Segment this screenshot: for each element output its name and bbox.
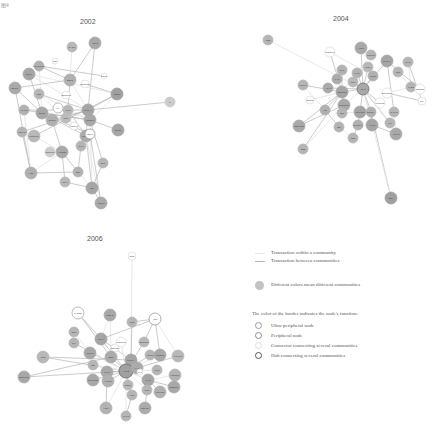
network-node: Infineon xyxy=(298,80,308,90)
node-label: HIE xyxy=(323,109,327,111)
node-label: EPSON xyxy=(416,88,424,90)
ultra-peripheral-node-icon xyxy=(255,322,262,329)
network-node: BASC xyxy=(67,42,77,52)
network-node: Nanya2 xyxy=(139,402,151,414)
network-node: SST xyxy=(337,108,347,118)
node-label: TOSHIBA xyxy=(110,347,120,349)
node-label: PSC xyxy=(396,71,401,73)
node-label: ELPIDA xyxy=(367,111,375,113)
network-node: Renesas xyxy=(154,386,166,398)
legend-label: Peripheral node xyxy=(271,333,303,338)
node-label: BSNC xyxy=(67,79,73,81)
network-node: TRIZ xyxy=(127,317,137,327)
node-label: SNP xyxy=(389,197,394,199)
node-label: SANYO xyxy=(390,111,398,113)
node-label: SSE xyxy=(301,148,306,150)
network-node: NANYA xyxy=(381,55,393,67)
node-label: ASAH xyxy=(325,87,331,89)
node-label: ALPHA xyxy=(61,181,69,183)
network-node: Lincoln xyxy=(70,122,78,130)
network-node: Amkor xyxy=(355,42,367,54)
node-label: EBSI xyxy=(109,356,114,358)
network-node: ELPIDA xyxy=(366,107,376,117)
network-node: Kingston xyxy=(154,349,166,361)
node-label: ASIC xyxy=(129,394,135,396)
network-graph: ONCCANONELEADASMTRIZUNITALPHAChipbondSam… xyxy=(0,215,240,430)
connector-node-icon xyxy=(255,342,262,349)
network-node: UNIT xyxy=(348,133,358,143)
node-label: SDRUGE xyxy=(294,125,304,127)
network-node: PSC xyxy=(393,67,403,77)
network-node: SANYO xyxy=(389,107,399,117)
network-node: ONC xyxy=(128,252,136,260)
node-label: TSMC xyxy=(147,354,154,356)
node-label: UMC xyxy=(155,369,160,371)
node-label: Mosel xyxy=(365,66,371,68)
network-node: Elpida xyxy=(123,380,133,390)
network-node: TX xyxy=(53,103,63,113)
node-label: Kingston xyxy=(86,119,95,121)
legend-label: Transaction within a community xyxy=(271,250,336,255)
node-label: PSC xyxy=(145,389,150,391)
network-node: Kingston xyxy=(84,114,96,126)
network-node: TTI xyxy=(385,118,395,128)
node-label: Winbond xyxy=(171,374,180,376)
node-label: ASCLIP xyxy=(97,202,105,204)
node-label: OKI xyxy=(420,100,424,102)
network-node: EEI xyxy=(73,167,83,177)
network-node: Elpida xyxy=(101,73,108,79)
node-label: Renesas xyxy=(356,111,366,113)
node-label: Powerchip xyxy=(88,379,99,381)
network-node: ATAS xyxy=(142,374,154,386)
community-color-icon xyxy=(255,281,264,290)
network-node: PSC xyxy=(61,113,71,123)
network-node: CAP xyxy=(137,369,143,375)
network-node: SSE xyxy=(298,144,308,154)
node-label: TRIZ xyxy=(130,321,136,323)
node-label: ALPAD xyxy=(392,133,399,135)
node-label: Formosa xyxy=(376,102,385,104)
node-label: CANON xyxy=(74,312,82,314)
node-label: Lincoln xyxy=(71,125,79,127)
network-node: EPSON xyxy=(415,84,425,94)
network-node: ELITE xyxy=(112,124,124,136)
edge xyxy=(90,120,103,163)
network-node: Infineon xyxy=(17,127,27,137)
network-node: ALPHA xyxy=(60,177,70,187)
network-node: SNP xyxy=(385,192,397,204)
network-node: ASM xyxy=(149,313,161,325)
node-label: Foxconn xyxy=(174,355,183,357)
node-label: ASAS xyxy=(123,370,129,372)
node-label: Kingston xyxy=(156,354,165,356)
node-label: ETMC xyxy=(39,112,46,114)
node-label: SME xyxy=(41,356,46,358)
node-label: OSE xyxy=(266,39,271,41)
network-node: Unit Trillium xyxy=(33,61,45,71)
node-label: Infineon xyxy=(299,84,308,86)
node-label: Chipbond xyxy=(325,51,335,53)
network-node: TSMC xyxy=(368,71,378,81)
node-label: ALAMO xyxy=(20,109,28,111)
network-node: KYEC xyxy=(406,82,416,92)
edges xyxy=(268,40,422,198)
network-node: OMO xyxy=(89,37,101,49)
node-label: Samsung xyxy=(61,94,71,96)
legend-label: Ultra-peripheral node xyxy=(271,323,314,328)
network-node: UMC xyxy=(348,77,358,87)
node-label: UNIT xyxy=(350,137,356,139)
network-node: Hynix xyxy=(352,68,362,78)
node-label: Tanaka xyxy=(48,119,56,121)
network-node: ZHI xyxy=(69,338,79,348)
node-label: Nanotech xyxy=(80,83,90,85)
edge xyxy=(387,61,394,112)
edge-between-swatch-icon xyxy=(255,261,265,262)
node-label: Winbond xyxy=(367,54,376,56)
edge-within-swatch-icon xyxy=(255,253,265,254)
node-label: SmartF xyxy=(306,99,314,101)
node-label: ELEAD xyxy=(106,314,114,316)
node-label: ZBC xyxy=(37,93,42,95)
network-node: Chipbond xyxy=(325,47,335,57)
network-node: ZBC xyxy=(34,89,44,99)
network-node: ELPIDA2 xyxy=(353,120,363,130)
network-node: SPIL xyxy=(98,158,108,168)
